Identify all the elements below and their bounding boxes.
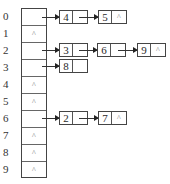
bucket-cell-1: ^ — [22, 26, 46, 43]
list-node: 7 ^ — [98, 111, 127, 125]
node-value: 3 — [60, 44, 73, 56]
node-value: 9 — [138, 44, 151, 56]
bucket-cell-6 — [22, 111, 46, 128]
index-label-5: 5 — [3, 93, 13, 110]
bucket-cell-4: ^ — [22, 77, 46, 94]
node-value: 4 — [60, 11, 73, 23]
arrow-next — [79, 50, 97, 51]
arrow-next — [79, 17, 98, 18]
arrow-next — [79, 118, 98, 119]
node-value: 5 — [99, 11, 112, 23]
bucket-cell-8: ^ — [22, 145, 46, 162]
node-value: 7 — [99, 112, 112, 124]
node-pointer — [73, 60, 87, 72]
node-value: 6 — [98, 44, 111, 56]
arrow-bucket3-to-node — [42, 66, 59, 67]
index-label-4: 4 — [3, 76, 13, 93]
bucket-cell-2 — [22, 43, 46, 60]
index-label-0: 0 — [3, 8, 13, 25]
arrow-bucket2-to-node — [42, 50, 59, 51]
index-label-1: 1 — [3, 25, 13, 42]
index-label-8: 8 — [3, 144, 13, 161]
index-label-3: 3 — [3, 59, 13, 76]
node-value: 2 — [60, 112, 73, 124]
arrow-next — [118, 50, 137, 51]
null-pointer: ^ — [112, 11, 126, 23]
null-pointer: ^ — [112, 112, 126, 124]
index-label-2: 2 — [3, 42, 13, 59]
null-pointer: ^ — [151, 44, 165, 56]
index-label-9: 9 — [3, 161, 13, 178]
index-label-7: 7 — [3, 127, 13, 144]
bucket-cell-3 — [22, 60, 46, 77]
list-node: 8 — [59, 59, 88, 73]
arrow-bucket0-to-node — [42, 17, 59, 18]
arrow-bucket6-to-node — [42, 118, 59, 119]
bucket-cell-7: ^ — [22, 128, 46, 145]
bucket-cell-5: ^ — [22, 94, 46, 111]
list-node: 5 ^ — [98, 10, 127, 24]
index-label-6: 6 — [3, 110, 13, 127]
node-value: 8 — [60, 60, 73, 72]
list-node: 9 ^ — [137, 43, 166, 57]
bucket-cell-9: ^ — [22, 162, 46, 179]
bucket-array: ^ ^ ^ ^ ^ ^ — [21, 8, 47, 178]
